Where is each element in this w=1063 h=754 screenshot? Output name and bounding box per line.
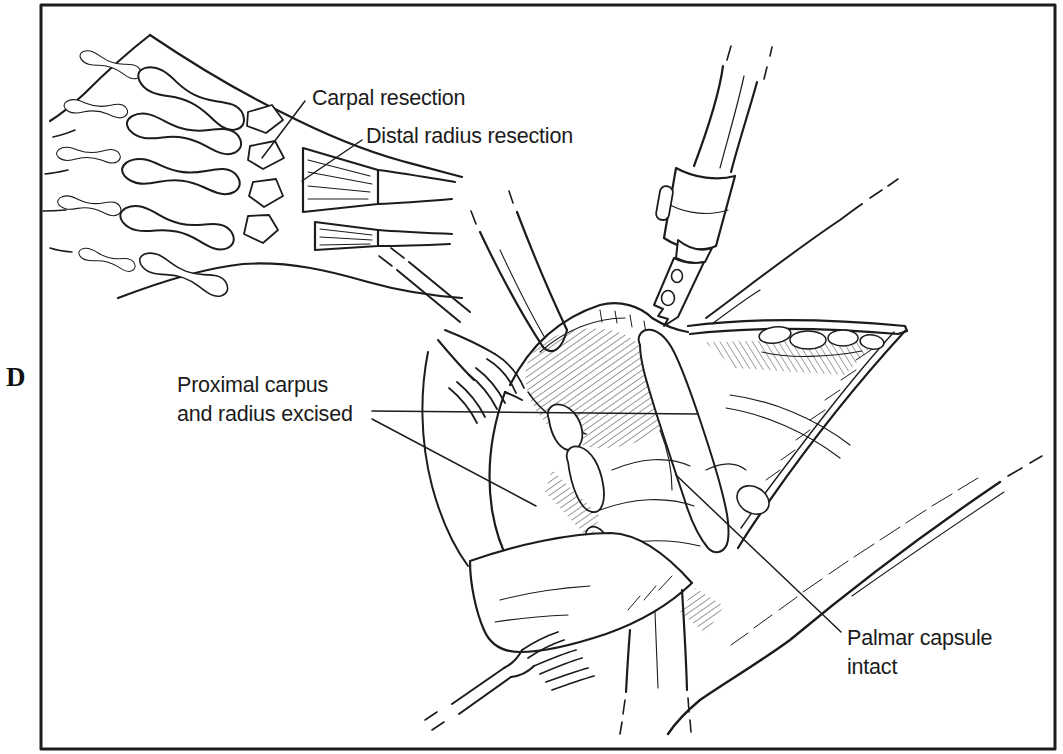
metacarpal-bases: [244, 105, 284, 243]
panel-letter: D: [6, 362, 26, 393]
retracted-tendon-band-upper: [471, 191, 567, 351]
radius-stump: [303, 148, 455, 212]
metacarpals: [118, 62, 249, 300]
hand-skeleton-inset: [43, 35, 462, 299]
skin-outline-top-right: [706, 179, 898, 324]
label-proximal-carpus-excised: Proximal carpus and radius excised: [177, 371, 353, 429]
ulna-stump: [315, 222, 452, 250]
figure-panel: D Carpal resection Distal radius resecti…: [0, 0, 1063, 754]
cut-radius-surface: [639, 330, 729, 552]
label-palmar-capsule-intact: Palmar capsule intact: [847, 624, 992, 682]
label-distal-radius-resection: Distal radius resection: [366, 122, 573, 151]
saw-instrument: [654, 46, 772, 326]
label-carpal-resection: Carpal resection: [312, 84, 465, 113]
palmar-skin-flap: [470, 533, 724, 652]
leader-proximal-carpus-2: [372, 419, 536, 506]
